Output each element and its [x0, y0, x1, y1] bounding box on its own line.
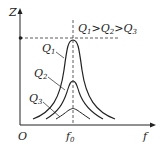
y-axis-arrow-icon [18, 8, 23, 14]
q-order-annotation: Q1>Q2>Q3 [78, 22, 137, 36]
peak-marker [19, 36, 23, 40]
f0-tick-label: f0 [65, 130, 75, 144]
x-axis-arrow-icon [150, 123, 156, 128]
q3-label: Q3 [29, 92, 43, 106]
curve-q2 [46, 81, 103, 119]
q1-leader [56, 52, 64, 58]
q2-label: Q2 [34, 67, 48, 81]
y-axis-label: Z [8, 6, 17, 19]
q1-label: Q1 [42, 42, 56, 56]
origin-label: O [18, 130, 27, 143]
resonance-chart: Z f O f0 Q1 Q2 Q3 Q1>Q2>Q3 [0, 0, 162, 147]
x-axis-label: f [142, 130, 149, 143]
